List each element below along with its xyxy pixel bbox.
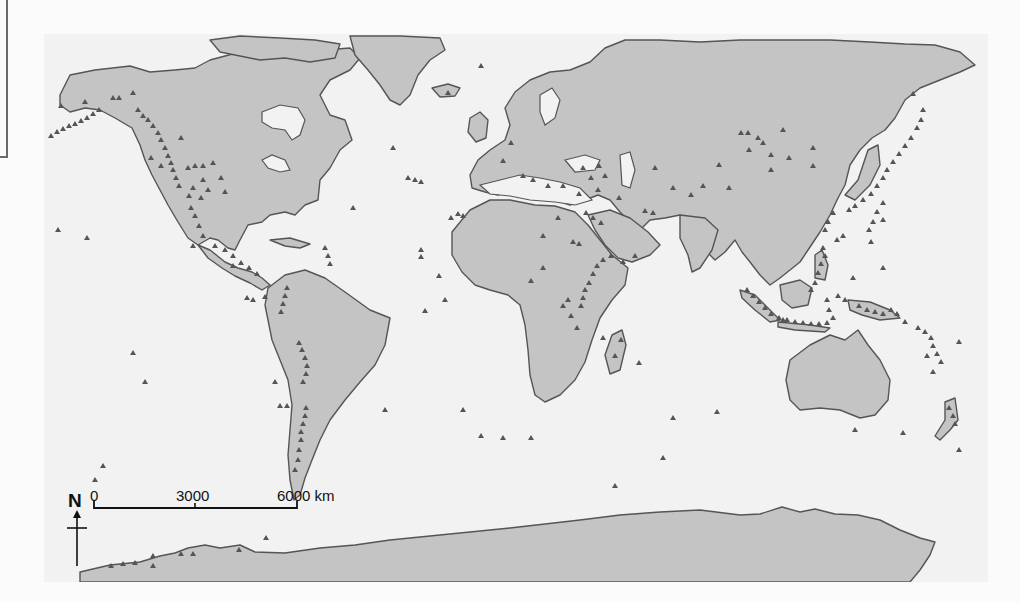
greenland xyxy=(350,36,445,105)
sumatra xyxy=(740,290,780,322)
madagascar xyxy=(605,330,626,374)
scale-tick-3000: 3000 xyxy=(176,488,209,503)
australia xyxy=(786,330,890,418)
iceland xyxy=(432,84,460,97)
page-frame-edge xyxy=(0,0,8,158)
antarctica xyxy=(80,507,935,582)
scale-tick-0: 0 xyxy=(90,488,98,503)
british-isles xyxy=(468,112,488,142)
north-arrow-icon xyxy=(62,508,92,568)
north-america xyxy=(60,46,360,250)
borneo xyxy=(780,280,812,308)
scale-tick-6000: 6000 km xyxy=(277,488,335,503)
cuba xyxy=(270,238,310,248)
new-zealand xyxy=(935,398,958,440)
